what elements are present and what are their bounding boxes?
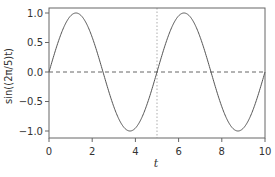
x-tick-label: 8 <box>219 146 225 157</box>
x-axis-label: t <box>154 157 159 170</box>
sine-chart: 0246810 1.00.50.0−0.5−1.0 t sin((2π/5)t) <box>0 0 275 177</box>
x-tick-label: 0 <box>46 146 52 157</box>
x-tick-label: 4 <box>132 146 138 157</box>
y-tick-label: −0.5 <box>19 96 43 107</box>
y-axis-label: sin((2π/5)t) <box>3 48 14 104</box>
x-tick-label: 6 <box>175 146 181 157</box>
x-tick-label: 10 <box>259 146 272 157</box>
x-tick-label: 2 <box>89 146 95 157</box>
y-tick-label: −1.0 <box>19 126 43 137</box>
y-tick-label: 0.0 <box>27 67 43 78</box>
y-axis-ticks: 1.00.50.0−0.5−1.0 <box>19 8 49 137</box>
x-axis-ticks: 0246810 <box>46 138 272 157</box>
y-tick-label: 1.0 <box>27 8 43 19</box>
y-tick-label: 0.5 <box>27 37 43 48</box>
